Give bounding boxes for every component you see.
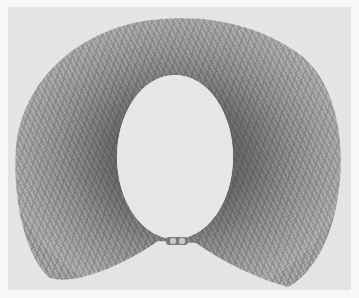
- chainmail-collar-image: [8, 7, 351, 290]
- collar-opening: [117, 75, 233, 239]
- photo-frame: [8, 7, 351, 290]
- clasp: [166, 237, 188, 245]
